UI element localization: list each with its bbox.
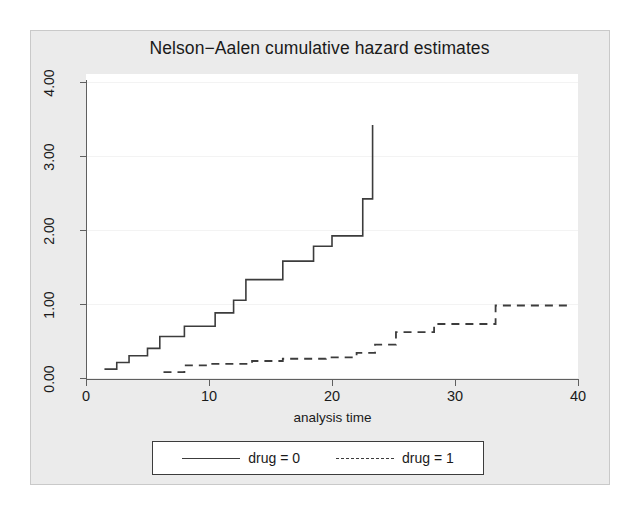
gridline-3 xyxy=(86,230,578,231)
x-tick-40 xyxy=(578,380,579,386)
gridline-4 xyxy=(86,304,578,305)
gridline-1 xyxy=(86,82,578,83)
y-tick-2 xyxy=(80,230,86,231)
y-tick-label-0: 0.00 xyxy=(41,356,57,402)
figure-canvas: Nelson−Aalen cumulative hazard estimates… xyxy=(0,0,639,513)
y-tick-label-1: 1.00 xyxy=(41,282,57,328)
legend-label-drug-1: drug = 1 xyxy=(402,450,454,466)
x-tick-10 xyxy=(209,380,210,386)
x-tick-20 xyxy=(332,380,333,386)
legend-label-drug-0: drug = 0 xyxy=(248,450,300,466)
x-tick-label-0: 0 xyxy=(61,388,111,404)
x-tick-label-40: 40 xyxy=(553,388,603,404)
legend-entry-drug-1[interactable]: drug = 1 xyxy=(336,450,454,466)
y-tick-4 xyxy=(80,82,86,83)
y-tick-label-4: 4.00 xyxy=(41,60,57,106)
chart-title: Nelson−Aalen cumulative hazard estimates xyxy=(0,38,639,59)
y-tick-label-3: 3.00 xyxy=(41,134,57,180)
x-tick-label-30: 30 xyxy=(430,388,480,404)
plot-area xyxy=(86,74,578,378)
x-axis-title: analysis time xyxy=(86,410,579,425)
x-tick-0 xyxy=(86,380,87,386)
gridline-2 xyxy=(86,156,578,157)
y-tick-0 xyxy=(80,378,86,379)
legend-key-dashed-line-icon xyxy=(336,452,394,464)
y-tick-label-2: 2.00 xyxy=(41,208,57,254)
y-tick-1 xyxy=(80,304,86,305)
y-tick-3 xyxy=(80,156,86,157)
x-tick-30 xyxy=(455,380,456,386)
legend-key-solid-line-icon xyxy=(182,452,240,464)
legend: drug = 0 drug = 1 xyxy=(152,441,484,475)
legend-entry-drug-0[interactable]: drug = 0 xyxy=(182,450,300,466)
x-tick-label-20: 20 xyxy=(307,388,357,404)
y-axis-line xyxy=(86,80,87,380)
x-tick-label-10: 10 xyxy=(184,388,234,404)
